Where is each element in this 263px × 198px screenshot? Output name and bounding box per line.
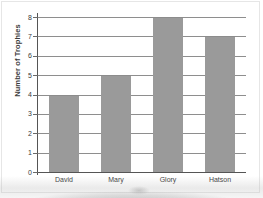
bar [205,36,235,172]
y-tick-mark [33,75,38,76]
y-tick-label: 0 [22,169,32,176]
y-tick-label: 7 [22,33,32,40]
trophies-bar-chart: Number of Trophies 012345678DavidMaryGlo… [0,0,263,198]
y-tick-mark [33,153,38,154]
y-tick-label: 8 [22,14,32,21]
y-tick-mark [33,133,38,134]
y-tick-label: 2 [22,130,32,137]
y-tick-label: 4 [22,91,32,98]
y-tick-label: 5 [22,72,32,79]
x-tick-label: David [38,176,90,183]
y-tick-mark [33,114,38,115]
x-tick-label: Glory [142,176,194,183]
y-tick-label: 3 [22,110,32,117]
gridline [38,17,246,18]
x-tick-label: Hatson [194,176,246,183]
y-tick-mark [33,172,38,173]
y-tick-mark [33,17,38,18]
y-tick-mark [33,36,38,37]
bar [49,95,79,173]
x-axis-line [38,172,246,173]
y-tick-label: 6 [22,52,32,59]
y-tick-mark [33,56,38,57]
bar [101,75,131,172]
y-axis-title: Number of Trophies [13,6,22,116]
bar-chart-screenshot: Number of Trophies 012345678DavidMaryGlo… [0,0,263,198]
y-tick-label: 1 [22,149,32,156]
bar [153,17,183,172]
y-tick-mark [33,95,38,96]
x-tick-label: Mary [90,176,142,183]
